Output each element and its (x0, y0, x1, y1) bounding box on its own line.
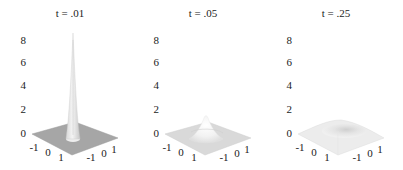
svg-text:0: 0 (234, 147, 240, 159)
plot-panel-2: t = .05 8 6 4 2 0 -1 0 1 -1 0 1 (154, 7, 252, 163)
svg-text:6: 6 (287, 56, 293, 68)
svg-text:-1: -1 (86, 151, 95, 163)
svg-text:0: 0 (45, 146, 51, 158)
svg-text:-1: -1 (29, 141, 38, 153)
svg-text:1: 1 (324, 151, 330, 163)
peak-surface (66, 33, 80, 142)
plot-title: t = .25 (322, 7, 351, 19)
svg-text:1: 1 (191, 151, 197, 163)
svg-text:4: 4 (287, 79, 293, 91)
svg-text:0: 0 (287, 127, 293, 139)
surface-plots: t = .01 8 6 4 2 0 -1 0 1 -1 0 1 t = .05 … (0, 0, 403, 170)
plot-panel-1: t = .01 8 6 4 2 0 -1 0 1 -1 0 1 (21, 7, 119, 163)
svg-text:6: 6 (154, 56, 160, 68)
svg-text:2: 2 (154, 103, 160, 115)
svg-text:8: 8 (287, 34, 293, 46)
plot-panel-3: t = .25 8 6 4 2 0 -1 0 1 -1 0 1 (287, 7, 385, 163)
svg-text:1: 1 (111, 143, 117, 155)
svg-text:-1: -1 (219, 151, 228, 163)
z-axis-ticks: 8 6 4 2 0 (154, 34, 160, 139)
z-axis-ticks: 8 6 4 2 0 (287, 34, 293, 139)
svg-text:-1: -1 (162, 141, 171, 153)
svg-text:2: 2 (21, 103, 27, 115)
svg-text:1: 1 (58, 151, 64, 163)
svg-text:0: 0 (154, 127, 160, 139)
svg-text:4: 4 (154, 79, 160, 91)
svg-text:0: 0 (178, 146, 184, 158)
svg-text:8: 8 (154, 34, 160, 46)
svg-text:0: 0 (367, 147, 373, 159)
svg-text:0: 0 (101, 147, 107, 159)
svg-text:4: 4 (21, 79, 27, 91)
svg-text:1: 1 (377, 143, 383, 155)
z-axis-ticks: 8 6 4 2 0 (21, 34, 27, 139)
svg-text:-1: -1 (295, 141, 304, 153)
svg-text:6: 6 (21, 56, 27, 68)
svg-text:1: 1 (244, 143, 250, 155)
svg-text:-1: -1 (352, 151, 361, 163)
svg-text:0: 0 (311, 146, 317, 158)
svg-text:8: 8 (21, 34, 27, 46)
svg-text:2: 2 (287, 103, 293, 115)
plot-title: t = .05 (189, 7, 218, 19)
svg-text:0: 0 (21, 127, 27, 139)
plot-title: t = .01 (56, 7, 85, 19)
